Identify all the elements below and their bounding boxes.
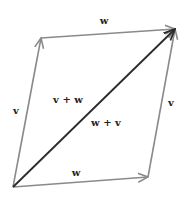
parallelogram-figure bbox=[0, 0, 185, 201]
label-w-bottom: w bbox=[72, 168, 81, 178]
vector-w-top-arrow bbox=[41, 29, 175, 38]
label-w-top: w bbox=[100, 16, 109, 26]
vector-addition-diagram: w w v v v + w w + v bbox=[0, 0, 185, 201]
vector-w-bottom-arrow bbox=[13, 177, 148, 187]
label-v-right: v bbox=[168, 98, 174, 108]
label-v-left: v bbox=[13, 106, 19, 116]
label-w-plus-v: w + v bbox=[91, 118, 121, 128]
label-v-plus-w: v + w bbox=[53, 95, 83, 105]
